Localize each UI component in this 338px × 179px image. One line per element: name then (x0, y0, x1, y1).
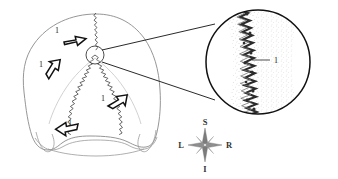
compass-label-superior: S (203, 117, 208, 127)
compass-label-left: L (178, 140, 184, 150)
arrow-label-1b: 1 (39, 60, 43, 69)
compass-label-right: R (226, 140, 233, 150)
arrow-label-1a: 1 (55, 26, 59, 35)
arrow-label-1c: 1 (101, 94, 105, 103)
anatomical-figure: 1 1 1 1 (0, 0, 338, 179)
figure-canvas: 1 1 1 1 (0, 0, 338, 179)
inset-label-1: 1 (274, 56, 278, 65)
arrow-label-1d: 1 (68, 119, 72, 128)
